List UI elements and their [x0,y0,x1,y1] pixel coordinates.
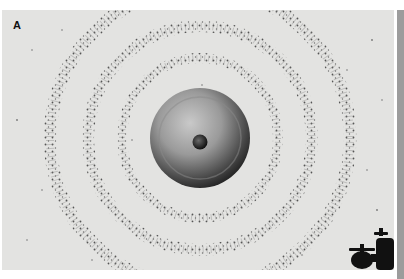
scene-illustration [2,10,394,270]
faucet-silhouette [349,228,394,270]
edge-strip [397,10,404,279]
bell-knob [193,135,208,150]
bell [150,88,250,188]
figure-photo: A [2,10,394,270]
panel-label: A [13,19,21,31]
